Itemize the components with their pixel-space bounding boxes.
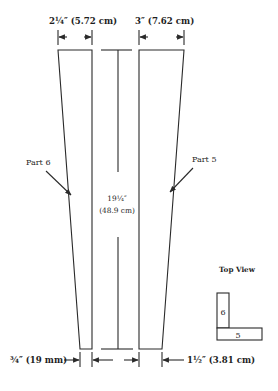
center-length-imperial: 19¼″ <box>107 194 127 203</box>
center-length-metric: (48.9 cm) <box>99 206 135 215</box>
part-6-outline <box>58 50 92 349</box>
top-right-width-label: 3″ (7.62 cm) <box>135 16 194 26</box>
bottom-left-width-label: ¾″ (19 mm) <box>10 355 67 365</box>
top-left-dimension-marker <box>58 30 92 45</box>
bottom-left-dimension-marker <box>64 352 92 367</box>
top-right-dimension-marker <box>139 30 184 45</box>
top-view-part-5-number: 5 <box>235 331 240 340</box>
bottom-right-width-label: 1½″ (3.81 cm) <box>187 355 255 365</box>
bottom-center-dimension-marker <box>93 352 139 367</box>
bottom-right-dimension-marker <box>162 352 184 367</box>
top-view-part-6-number: 6 <box>220 308 225 317</box>
cut-diagram: 2¼″ (5.72 cm) 3″ (7.62 cm) 19¼″ (48.9 cm… <box>0 0 278 391</box>
top-view-title: Top View <box>219 265 256 274</box>
part-5-leader-arrow <box>170 168 193 192</box>
top-left-width-label: 2¼″ (5.72 cm) <box>49 16 117 26</box>
part-5-label: Part 5 <box>192 155 216 164</box>
part-5-outline <box>139 50 184 349</box>
part-6-label: Part 6 <box>26 158 50 167</box>
